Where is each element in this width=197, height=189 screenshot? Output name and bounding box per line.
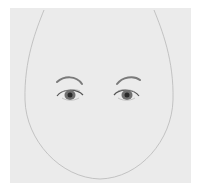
face-outline: [25, 10, 173, 179]
face-sketch: [0, 0, 197, 189]
left-eye: [57, 90, 83, 101]
left-eyebrow: [57, 77, 82, 84]
right-eyebrow: [117, 77, 140, 84]
right-eye: [114, 90, 139, 101]
